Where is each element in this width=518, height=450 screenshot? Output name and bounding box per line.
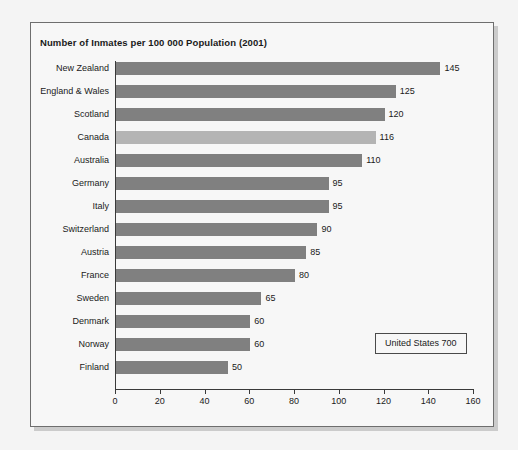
bar: [116, 200, 329, 213]
bar-row: Switzerland90: [115, 223, 473, 236]
bar-row: France80: [115, 269, 473, 282]
bar: [116, 62, 440, 75]
bar-row: Austria85: [115, 246, 473, 259]
bar-value-label: 60: [254, 314, 264, 328]
x-tick: [473, 389, 474, 394]
bar-row: Scotland120: [115, 108, 473, 121]
bar-row: Canada116: [115, 131, 473, 144]
x-tick: [384, 389, 385, 394]
category-label: Austria: [81, 245, 109, 259]
bar: [116, 269, 295, 282]
bar-value-label: 95: [333, 199, 343, 213]
category-label: New Zealand: [56, 61, 109, 75]
bar-row: New Zealand145: [115, 62, 473, 75]
x-tick-label: 60: [244, 396, 254, 406]
category-label: Finland: [79, 360, 109, 374]
bar-value-label: 95: [333, 176, 343, 190]
bar-row: Australia110: [115, 154, 473, 167]
bar-value-label: 90: [321, 222, 331, 236]
bar-row: Finland50: [115, 361, 473, 374]
bar-value-label: 65: [265, 291, 275, 305]
x-tick: [115, 389, 116, 394]
page-title: Number of Inmates per 100 000 Population…: [40, 37, 267, 48]
bar-row: Germany95: [115, 177, 473, 190]
bar: [116, 361, 228, 374]
bar-value-label: 110: [366, 153, 380, 167]
category-label: Norway: [78, 337, 109, 351]
bar: [116, 292, 261, 305]
bar: [116, 131, 376, 144]
chart-panel: Number of Inmates per 100 000 Population…: [30, 22, 494, 427]
bar-value-label: 125: [400, 84, 415, 98]
x-tick: [339, 389, 340, 394]
bar: [116, 223, 317, 236]
bar: [116, 85, 396, 98]
x-tick-label: 0: [112, 396, 117, 406]
bar-value-label: 80: [299, 268, 309, 282]
x-tick-label: 140: [421, 396, 436, 406]
category-label: Denmark: [72, 314, 109, 328]
bar-value-label: 116: [380, 130, 394, 144]
bar-row: Italy95: [115, 200, 473, 213]
x-tick: [428, 389, 429, 394]
bar: [116, 108, 385, 121]
bar: [116, 154, 362, 167]
x-tick-label: 20: [155, 396, 165, 406]
x-tick: [160, 389, 161, 394]
category-label: France: [81, 268, 109, 282]
bar-value-label: 60: [254, 337, 264, 351]
category-label: England & Wales: [40, 84, 109, 98]
category-label: Australia: [74, 153, 109, 167]
x-tick-label: 160: [465, 396, 480, 406]
bar-value-label: 145: [444, 61, 459, 75]
bar-row: Sweden65: [115, 292, 473, 305]
bar: [116, 177, 329, 190]
category-label: Scotland: [74, 107, 109, 121]
x-tick: [249, 389, 250, 394]
category-label: Switzerland: [62, 222, 109, 236]
x-tick-label: 120: [376, 396, 391, 406]
bar-value-label: 120: [389, 107, 404, 121]
bar: [116, 315, 250, 328]
bar-row: England & Wales125: [115, 85, 473, 98]
category-label: Germany: [72, 176, 109, 190]
bar-row: Denmark60: [115, 315, 473, 328]
category-label: Italy: [92, 199, 109, 213]
x-tick-label: 40: [199, 396, 209, 406]
x-tick: [294, 389, 295, 394]
chart-screenshot: Number of Inmates per 100 000 Population…: [0, 0, 518, 450]
bar-value-label: 50: [232, 360, 242, 374]
bar: [116, 246, 306, 259]
x-tick: [205, 389, 206, 394]
category-label: Canada: [77, 130, 109, 144]
bar: [116, 338, 250, 351]
annotation-united-states: United States 700: [375, 333, 467, 354]
bar-value-label: 85: [310, 245, 320, 259]
x-tick-label: 80: [289, 396, 299, 406]
category-label: Sweden: [76, 291, 109, 305]
x-tick-label: 100: [331, 396, 346, 406]
